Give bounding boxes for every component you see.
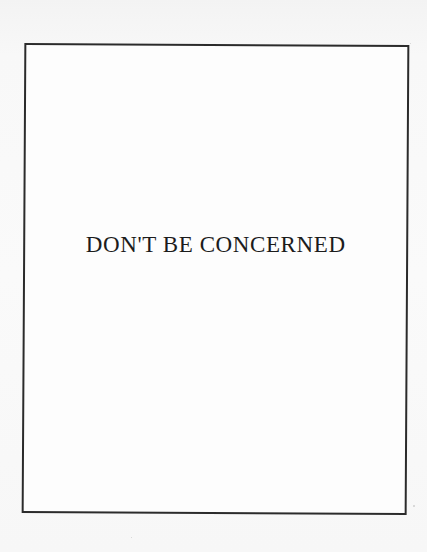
title-frame-border: DON'T BE CONCERNED [22,43,410,515]
scan-speck [410,43,411,44]
scanned-page: DON'T BE CONCERNED [0,0,427,552]
scan-speck [413,505,415,507]
scan-speck [131,537,132,538]
section-title: DON'T BE CONCERNED [25,233,406,256]
